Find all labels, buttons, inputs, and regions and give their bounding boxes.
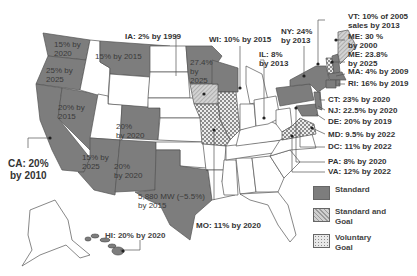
- legend-swatch-solid: [313, 186, 330, 200]
- state-ct: [326, 80, 336, 88]
- label-nj: NJ: 22.5% by 2020: [328, 106, 397, 115]
- label-tx: 5,880 MW (~5.5%) by 2015: [138, 192, 205, 210]
- state-md: [296, 104, 318, 116]
- label-md: MD: 9.5% by 2022: [328, 130, 395, 139]
- state-fl: [240, 192, 296, 242]
- label-dc: DC: 11% by 2022: [328, 142, 392, 151]
- legend-label: Standard: [335, 185, 370, 195]
- label-mt: 15% by 2015: [95, 52, 142, 61]
- label-ny: NY: 24% by 2013: [281, 27, 312, 45]
- legend: Standard Standard and Goal Voluntary Goa…: [313, 185, 386, 259]
- label-hi: HI: 20% by 2020: [105, 231, 165, 240]
- label-mn: 27.4% by 2025: [190, 58, 213, 86]
- legend-label: Standard and Goal: [335, 207, 386, 226]
- label-vt: VT: 10% of 2005 sales by 2013: [348, 12, 408, 30]
- label-wa: 15% by 2020: [54, 40, 81, 58]
- legend-item-standard-and-goal: Standard and Goal: [313, 207, 386, 226]
- label-me-23: ME: 23.8% by 2025: [348, 50, 388, 68]
- label-ct: CT: 23% by 2020: [328, 95, 390, 104]
- label-ia: IA: 2% by 1999: [125, 32, 181, 41]
- legend-label: Voluntary Goal: [335, 233, 371, 252]
- label-de: DE: 20% by 2019: [328, 117, 392, 126]
- label-nm: 20% by 2020: [114, 162, 142, 180]
- state-nd: [150, 46, 188, 72]
- label-nv: 20% by 2015: [58, 103, 85, 121]
- label-il: IL: 8% by 2013: [259, 50, 288, 68]
- legend-swatch-hatched: [313, 208, 330, 222]
- state-ri: [336, 80, 340, 86]
- label-or: 25% by 2025: [46, 66, 73, 84]
- legend-item-standard: Standard: [313, 185, 386, 200]
- label-pa: PA: 8% by 2020: [328, 157, 387, 166]
- label-me-30: ME: 30 % by 2000: [348, 32, 383, 50]
- label-az: 15% by 2025: [82, 153, 109, 171]
- state-ks: [158, 118, 203, 142]
- state-pa: [276, 84, 314, 106]
- label-mo: MO: 11% by 2020: [196, 221, 261, 230]
- label-ca: CA: 20% by 2010: [8, 158, 49, 181]
- state-ia: [190, 84, 222, 104]
- state-ar: [203, 144, 226, 170]
- state-sd: [148, 72, 190, 98]
- label-co: 20% by 2020: [116, 122, 144, 140]
- state-in: [240, 104, 256, 130]
- state-ms: [222, 160, 238, 195]
- label-ri: RI: 16% by 2019: [348, 79, 408, 88]
- label-ma: MA: 4% by 2009: [348, 67, 408, 76]
- legend-item-voluntary-goal: Voluntary Goal: [313, 233, 386, 252]
- legend-swatch-checkered: [313, 234, 330, 248]
- label-wi: WI: 10% by 2015: [209, 35, 271, 44]
- label-va: VA: 12% by 2022: [328, 167, 391, 176]
- state-ak: [22, 200, 90, 266]
- state-wy: [108, 74, 150, 108]
